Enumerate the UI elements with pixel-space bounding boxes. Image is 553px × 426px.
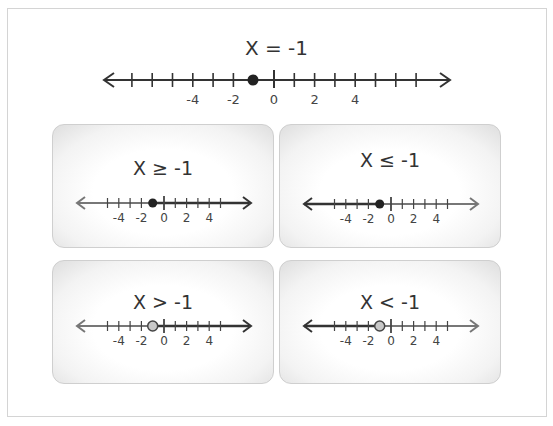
svg-text:0: 0 (387, 212, 395, 226)
svg-text:-4: -4 (113, 211, 125, 225)
svg-text:0: 0 (160, 211, 168, 225)
svg-text:2: 2 (410, 212, 418, 226)
svg-text:2: 2 (183, 211, 191, 225)
panel-x-lt-neg1: X < -1 -4-2024 (279, 260, 501, 384)
svg-text:-4: -4 (340, 212, 352, 226)
panel-x-gt-neg1: X > -1 -4-2024 (52, 260, 274, 384)
svg-text:4: 4 (432, 212, 440, 226)
panel-x-ge-neg1: X ≥ -1 -4-2024 (52, 124, 274, 248)
svg-text:-4: -4 (186, 92, 199, 107)
svg-text:4: 4 (205, 211, 213, 225)
number-line: -4-2024 (280, 261, 502, 385)
svg-text:0: 0 (270, 92, 278, 107)
number-line: -4-2024 (280, 125, 502, 249)
svg-text:-2: -2 (362, 212, 374, 226)
svg-text:4: 4 (432, 334, 440, 348)
svg-text:-4: -4 (113, 334, 125, 348)
svg-text:2: 2 (310, 92, 318, 107)
svg-text:0: 0 (160, 334, 168, 348)
svg-text:2: 2 (183, 334, 191, 348)
svg-text:-2: -2 (227, 92, 240, 107)
number-line: -4-2024 (53, 261, 275, 385)
panel-x-le-neg1: X ≤ -1 -4-2024 (279, 124, 501, 248)
svg-text:4: 4 (351, 92, 359, 107)
svg-text:-2: -2 (135, 334, 147, 348)
svg-text:0: 0 (387, 334, 395, 348)
svg-text:-2: -2 (135, 211, 147, 225)
svg-text:-4: -4 (340, 334, 352, 348)
svg-text:-2: -2 (362, 334, 374, 348)
svg-text:2: 2 (410, 334, 418, 348)
svg-text:4: 4 (205, 334, 213, 348)
number-line: -4-2024 (53, 125, 275, 249)
main-point (248, 75, 259, 86)
